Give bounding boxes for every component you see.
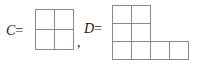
diagram-row	[35, 29, 73, 50]
diagram-row	[35, 9, 73, 30]
diagram-cell	[112, 23, 132, 42]
diagram-row	[112, 23, 188, 42]
variable-c: C	[6, 23, 15, 38]
diagram-cell	[169, 41, 189, 60]
diagram-cell	[35, 9, 55, 30]
variable-d: D	[84, 21, 94, 36]
equals-sign-c: =	[15, 23, 23, 38]
diagram-row	[112, 5, 188, 24]
young-diagram-d	[112, 5, 188, 59]
diagram-cell	[131, 5, 151, 24]
separator-comma: ,	[77, 36, 81, 50]
diagram-cell	[35, 29, 55, 50]
diagram-cell	[54, 29, 74, 50]
diagram-cell	[112, 41, 132, 60]
label-d: D=	[84, 22, 102, 36]
figure-canvas: C= , D=	[0, 0, 197, 66]
diagram-row	[112, 41, 188, 60]
diagram-cell	[112, 5, 132, 24]
diagram-cell	[54, 9, 74, 30]
diagram-cell	[150, 41, 170, 60]
equals-sign-d: =	[94, 21, 102, 36]
label-c: C=	[6, 24, 23, 38]
diagram-cell	[131, 41, 151, 60]
young-diagram-c	[35, 9, 73, 49]
diagram-cell	[131, 23, 151, 42]
